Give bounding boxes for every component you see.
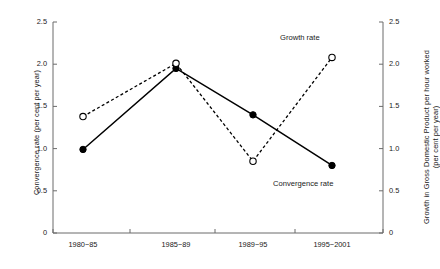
y2-axis-title: Growth in Gross Domestic Product per hou…: [422, 22, 440, 252]
y-tick-label: 0: [21, 228, 47, 237]
data-point-open: [80, 113, 86, 119]
y2-tick-label: 1.0: [389, 144, 415, 153]
data-point-filled: [250, 112, 256, 118]
series-lines: [83, 57, 332, 165]
y-tick-label: 1.5: [21, 101, 47, 110]
x-axis-ticks: [53, 229, 383, 233]
series-annotation: Growth rate: [280, 33, 320, 42]
data-point-filled: [80, 146, 86, 152]
y2-tick-label: 0: [389, 228, 415, 237]
x-tick-label: 1989−95: [213, 240, 293, 249]
x-tick-label: 1995−2001: [292, 240, 372, 249]
data-point-open: [173, 60, 179, 66]
series-line: [83, 68, 332, 165]
data-point-filled: [329, 162, 335, 168]
series-markers: [80, 54, 335, 168]
y-tick-label: 0.5: [21, 186, 47, 195]
x-tick-label: 1985−89: [136, 240, 216, 249]
y2-tick-label: 1.5: [389, 101, 415, 110]
y2-axis-title-line2: (per cent per year): [431, 22, 440, 252]
data-point-open: [250, 158, 256, 164]
y-tick-label: 2.0: [21, 59, 47, 68]
y2-axis-title-line1: Growth in Gross Domestic Product per hou…: [422, 50, 431, 224]
series-line: [83, 57, 332, 161]
left-axis-ticks: [53, 22, 57, 233]
y-tick-label: 2.5: [21, 17, 47, 26]
x-tick-label: 1980−85: [43, 240, 123, 249]
y2-tick-label: 2.5: [389, 17, 415, 26]
series-annotation: Convergence rate: [273, 179, 333, 188]
y2-tick-label: 2.0: [389, 59, 415, 68]
data-point-open: [329, 54, 335, 60]
y2-tick-label: 0.5: [389, 186, 415, 195]
y-tick-label: 1.0: [21, 144, 47, 153]
right-axis-ticks: [379, 22, 383, 233]
